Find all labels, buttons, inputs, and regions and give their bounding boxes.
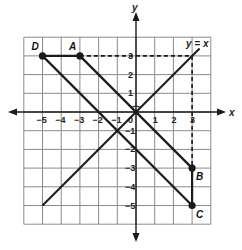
- segments: [43, 48, 200, 205]
- x-tick-label: −4: [55, 115, 65, 125]
- x-axis-right-arrow-icon: [217, 109, 226, 116]
- y-axis-label: y: [131, 2, 138, 13]
- y-tick-label: −3: [125, 163, 135, 173]
- x-tick-label: −3: [74, 115, 84, 125]
- y-axis-down-arrow-icon: [133, 233, 140, 242]
- y-tick-label: −5: [125, 201, 135, 211]
- x-tick-label: −2: [93, 115, 103, 125]
- x-tick-label: −5: [37, 115, 47, 125]
- point-label-D: D: [32, 41, 39, 52]
- reflection-line-label: y = x: [185, 38, 209, 49]
- point-label-A: A: [68, 41, 76, 52]
- coordinate-plane: −5−4−3−2−10123123−1−2−3−4−5 DABC x y y =…: [0, 0, 242, 250]
- point-label-C: C: [196, 209, 204, 220]
- point-D: [39, 52, 46, 59]
- x-tick-label: 2: [171, 115, 176, 125]
- x-tick-label: 3: [190, 115, 195, 125]
- y-tick-label: −1: [125, 126, 135, 136]
- y-tick-label: 3: [128, 51, 133, 61]
- point-C: [189, 202, 196, 209]
- x-axis-label: x: [228, 107, 235, 118]
- y-tick-label: −4: [125, 182, 135, 192]
- y-axis-up-arrow-icon: [133, 12, 140, 21]
- y-tick-label: 1: [128, 88, 133, 98]
- point-A: [76, 52, 83, 59]
- x-axis-left-arrow-icon: [8, 109, 17, 116]
- x-tick-label: 1: [153, 115, 158, 125]
- x-tick-label: −1: [111, 115, 121, 125]
- reflection-line-y-equals-x: [43, 48, 200, 205]
- point-B: [189, 165, 196, 172]
- y-tick-label: 2: [128, 70, 133, 80]
- point-label-B: B: [196, 171, 203, 182]
